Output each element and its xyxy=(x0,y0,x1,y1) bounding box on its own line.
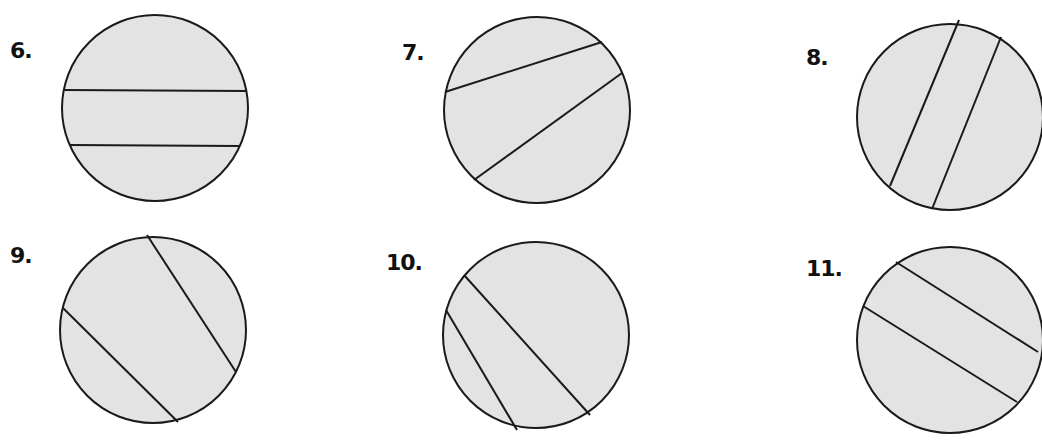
circle-figure-8 xyxy=(857,20,1042,210)
circle-figure-9 xyxy=(60,235,246,423)
figure-number-label: 10. xyxy=(386,250,422,275)
circle-figure-11 xyxy=(857,247,1042,433)
figures-canvas xyxy=(0,0,1042,442)
circle xyxy=(857,24,1042,210)
figure-number-label: 11. xyxy=(806,256,842,281)
circle xyxy=(62,15,248,201)
circle xyxy=(444,17,630,203)
figure-number-label: 9. xyxy=(10,243,32,268)
circle xyxy=(60,237,246,423)
circle-figure-7 xyxy=(444,17,630,203)
chord-line xyxy=(70,145,240,146)
figure-number-label: 7. xyxy=(402,40,424,65)
circle xyxy=(857,247,1042,433)
circle-figure-10 xyxy=(443,242,629,430)
figure-number-label: 6. xyxy=(10,38,32,63)
figure-number-label: 8. xyxy=(806,45,828,70)
chord-line xyxy=(63,90,247,91)
circle-figure-6 xyxy=(62,15,248,201)
circle xyxy=(443,242,629,428)
